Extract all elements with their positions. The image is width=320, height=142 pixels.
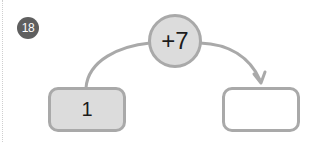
connector-operation-to-result bbox=[200, 43, 260, 80]
answer-box[interactable] bbox=[222, 87, 300, 132]
start-value: 1 bbox=[81, 98, 92, 121]
operation-label: +7 bbox=[161, 27, 188, 55]
operation-circle: +7 bbox=[148, 14, 202, 68]
connector-start-to-operation bbox=[86, 43, 150, 88]
start-value-box: 1 bbox=[48, 87, 126, 132]
